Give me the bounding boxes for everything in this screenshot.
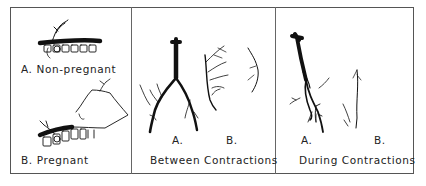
panel-title-between-contractions: Between Contractions: [150, 154, 278, 166]
sub-label-letter: A.: [21, 63, 33, 75]
during-contractions-vessel-a: [290, 34, 323, 132]
between-contractions-vessel-b: [205, 46, 258, 110]
label-non-pregnant: A. Non-pregnant: [21, 63, 116, 75]
label-between-b: B.: [226, 134, 238, 146]
sub-label-letter: B.: [21, 154, 33, 166]
label-pregnant: B. Pregnant: [21, 154, 89, 166]
label-during-a: A.: [301, 134, 313, 146]
pregnant-illustration: [40, 79, 128, 146]
between-contractions-vessel-a: [140, 39, 198, 132]
label-between-a: A.: [172, 134, 184, 146]
label-during-b: B.: [374, 134, 386, 146]
non-pregnant-illustration: [40, 20, 100, 58]
sub-label-text: Non-pregnant: [37, 63, 117, 75]
sub-label-text: Pregnant: [37, 154, 89, 166]
during-contractions-vessel-b: [315, 70, 361, 128]
panel-title-during-contractions: During Contractions: [299, 154, 416, 166]
